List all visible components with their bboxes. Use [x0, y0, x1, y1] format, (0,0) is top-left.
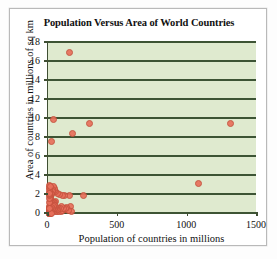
- x-tick-mark: [117, 212, 119, 216]
- data-point: [227, 120, 234, 127]
- x-tick-label: 1000: [166, 220, 206, 230]
- gridline-y: [48, 117, 256, 119]
- gridline-y: [48, 155, 256, 157]
- chart-title: Population Versus Area of World Countrie…: [10, 17, 268, 28]
- gridline-y: [48, 136, 256, 138]
- gridline-y: [48, 193, 256, 195]
- x-tick-label: 0: [27, 220, 67, 230]
- y-tick-mark: [44, 60, 48, 62]
- data-point: [195, 180, 202, 187]
- data-point: [80, 192, 87, 199]
- y-tick-mark: [44, 79, 48, 81]
- y-tick-mark: [44, 174, 48, 176]
- y-tick-label: 0: [14, 208, 40, 218]
- y-tick-label: 2: [14, 189, 40, 199]
- data-point: [69, 130, 76, 137]
- gridline-y: [48, 41, 256, 43]
- y-tick-mark: [44, 193, 48, 195]
- y-axis-label-wrapper: Area of countries in millions of sq km: [23, 15, 37, 186]
- x-tick-label: 1500: [236, 220, 276, 230]
- gridline-y: [48, 60, 256, 62]
- x-tick-label: 500: [97, 220, 137, 230]
- data-point: [50, 116, 57, 123]
- y-tick-mark: [44, 98, 48, 100]
- y-axis-label: Area of countries in millions of sq km: [23, 15, 37, 186]
- y-tick-mark: [44, 41, 48, 43]
- gridline-y: [48, 174, 256, 176]
- data-point: [86, 120, 93, 127]
- y-tick-mark: [44, 136, 48, 138]
- x-tick-mark: [256, 212, 258, 216]
- y-tick-mark: [44, 155, 48, 157]
- x-axis-label: Population of countries in millions: [47, 233, 256, 244]
- x-tick-mark: [187, 212, 189, 216]
- figure-page: Population Versus Area of World Countrie…: [0, 0, 277, 259]
- scatter-plot-area: [47, 42, 256, 213]
- data-point: [48, 138, 55, 145]
- x-tick-mark: [47, 212, 49, 216]
- y-tick-mark: [44, 117, 48, 119]
- figure-frame: Population Versus Area of World Countrie…: [9, 8, 267, 246]
- gridline-y: [48, 98, 256, 100]
- data-point: [47, 183, 54, 190]
- data-point: [66, 49, 73, 56]
- gridline-y: [48, 212, 256, 214]
- gridline-y: [48, 79, 256, 81]
